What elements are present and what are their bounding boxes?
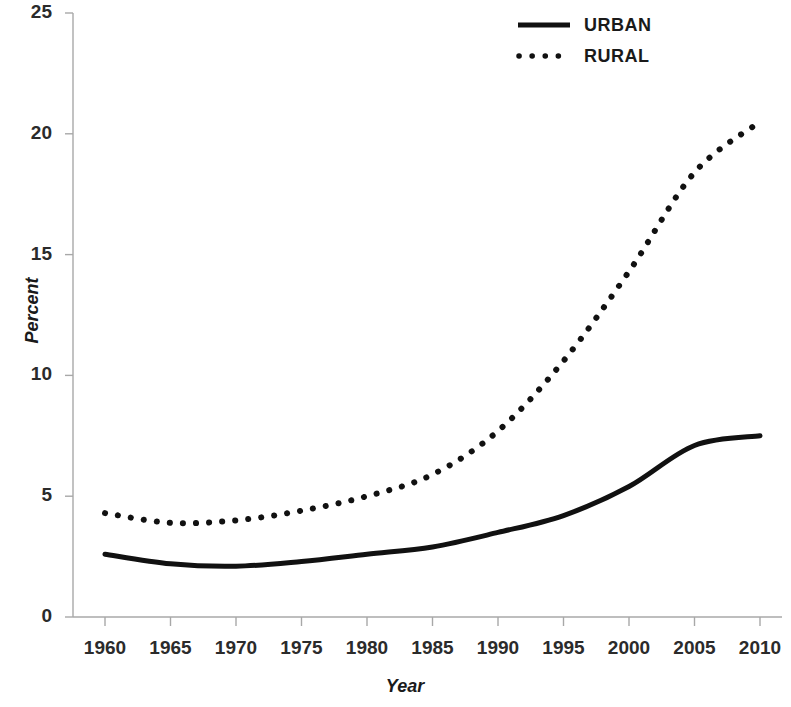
legend-swatch-dotted-icon <box>516 48 572 64</box>
x-tick-label: 1970 <box>201 637 271 659</box>
x-tick-label: 2005 <box>660 637 730 659</box>
x-tick-label: 2000 <box>594 637 664 659</box>
legend-swatch-solid-icon <box>516 17 572 33</box>
y-axis-title: Percent <box>22 261 43 361</box>
y-tick-label: 20 <box>0 122 52 144</box>
chart-plot-area <box>0 0 791 707</box>
x-tick-label: 1980 <box>332 637 402 659</box>
x-tick-label: 2010 <box>725 637 791 659</box>
x-tick-label: 1990 <box>463 637 533 659</box>
x-tick-label: 1975 <box>267 637 337 659</box>
y-tick-marks <box>65 13 73 617</box>
x-tick-label: 1985 <box>398 637 468 659</box>
axes <box>73 13 782 617</box>
x-tick-label: 1960 <box>70 637 140 659</box>
y-tick-label: 25 <box>0 1 52 23</box>
legend-item-urban: URBAN <box>516 14 652 36</box>
legend-label-urban: URBAN <box>584 15 652 36</box>
data-series-group <box>105 122 760 567</box>
y-tick-label: 10 <box>0 363 52 385</box>
x-tick-label: 1995 <box>529 637 599 659</box>
legend-item-rural: RURAL <box>516 45 650 67</box>
x-axis-title: Year <box>355 676 455 697</box>
x-tick-label: 1965 <box>136 637 206 659</box>
chart-container: 0510152025 19601965197019751980198519901… <box>0 0 791 707</box>
legend-label-rural: RURAL <box>584 46 650 67</box>
y-tick-label: 5 <box>0 484 52 506</box>
y-tick-label: 0 <box>0 605 52 627</box>
series-line-urban <box>105 436 760 567</box>
x-tick-marks <box>105 617 760 626</box>
